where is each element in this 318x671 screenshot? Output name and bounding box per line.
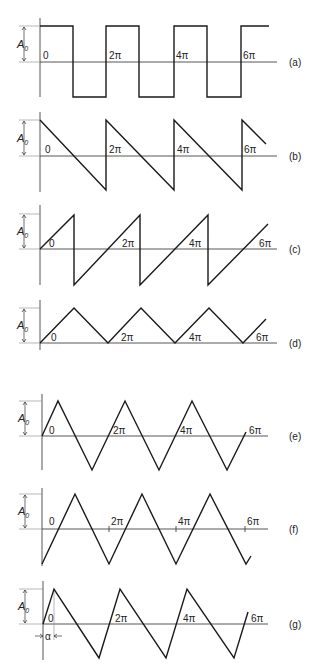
svg-text:0: 0 (48, 613, 54, 624)
svg-text:4π: 4π (178, 516, 191, 527)
panel-label: (e) (289, 431, 301, 442)
falling-sawtooth (40, 120, 266, 190)
panel-label: (f) (289, 524, 298, 535)
triangle-wave (42, 401, 246, 470)
svg-text:4π: 4π (189, 332, 202, 343)
panel-label: (g) (289, 619, 301, 630)
square-wave (40, 26, 269, 97)
svg-text:0: 0 (49, 425, 55, 436)
svg-text:4π: 4π (177, 144, 190, 155)
svg-text:2π: 2π (109, 50, 122, 61)
amplitude-label: A0 (17, 600, 29, 614)
amplitude-label: A0 (16, 38, 28, 52)
svg-text:2π: 2π (109, 144, 122, 155)
svg-text:6π: 6π (243, 50, 256, 61)
alpha-label: α (45, 631, 51, 642)
panel-label: (b) (289, 151, 301, 162)
amplitude-label: A0 (17, 505, 29, 519)
svg-text:4π: 4π (176, 50, 189, 61)
panel-d: A0 0 2π 4π 6π (d) (16, 300, 301, 350)
rectified-triangle (40, 308, 266, 343)
panel-a: A0 0 2π 4π 6π (a) (16, 18, 301, 97)
svg-text:6π: 6π (251, 613, 264, 624)
svg-text:2π: 2π (115, 613, 128, 624)
panel-b: A0 0 2π 4π 6π (b) (16, 112, 301, 192)
panel-label: (a) (289, 57, 301, 68)
svg-text:0: 0 (49, 516, 55, 527)
svg-text:6π: 6π (244, 144, 257, 155)
svg-text:4π: 4π (183, 613, 196, 624)
panel-label: (d) (289, 338, 301, 349)
svg-text:0: 0 (49, 238, 55, 249)
amplitude-label: A0 (16, 319, 28, 333)
rising-sawtooth (40, 215, 268, 285)
svg-text:4π: 4π (189, 238, 202, 249)
svg-text:6π: 6π (259, 238, 272, 249)
panel-e: A0 0 2π 4π 6π (e) (17, 394, 301, 470)
panel-f: A0 0 2π 4π 6π (f) (17, 488, 298, 566)
panel-g: A0 α 0 2π 4π 6π (g) (17, 581, 301, 660)
amplitude-label: A0 (17, 412, 29, 426)
waveform-figure: A0 0 2π 4π 6π (a) A0 0 2π 4π 6π (b) A0 0… (0, 0, 318, 671)
svg-text:2π: 2π (111, 516, 124, 527)
asymmetric-triangle-wave (43, 589, 248, 658)
panel-label: (c) (289, 244, 301, 255)
svg-text:2π: 2π (122, 238, 135, 249)
amplitude-label: A0 (16, 132, 28, 146)
svg-text:6π: 6π (256, 332, 269, 343)
svg-text:2π: 2π (121, 332, 134, 343)
svg-text:4π: 4π (180, 425, 193, 436)
svg-text:2π: 2π (113, 425, 126, 436)
svg-text:0: 0 (43, 50, 49, 61)
svg-text:0: 0 (45, 144, 51, 155)
svg-text:6π: 6π (247, 516, 260, 527)
panel-c: A0 0 2π 4π 6π (c) (16, 205, 301, 285)
amplitude-label: A0 (16, 225, 28, 239)
svg-text:0: 0 (51, 332, 57, 343)
svg-text:6π: 6π (249, 425, 262, 436)
